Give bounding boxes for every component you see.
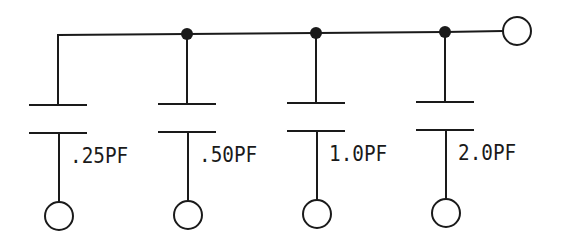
capacitor-4 <box>416 32 474 227</box>
capacitor-3-label: 1.0PF <box>329 144 387 165</box>
capacitor-2-label: .50PF <box>199 145 257 166</box>
output-terminal <box>503 17 531 45</box>
junction-dot-1 <box>181 28 193 40</box>
capacitor-3 <box>287 33 345 228</box>
terminal-3 <box>303 200 331 228</box>
circuit-diagram: .25PF .50PF 1.0PF 2.0PF <box>0 0 562 244</box>
bus-wire <box>58 31 503 105</box>
junction-dot-3 <box>439 26 451 38</box>
capacitor-1-label: .25PF <box>70 146 128 167</box>
schematic-drawing <box>0 0 562 244</box>
terminal-1 <box>45 202 73 230</box>
terminal-4 <box>432 199 460 227</box>
capacitor-4-label: 2.0PF <box>458 143 516 164</box>
terminal-2 <box>174 201 202 229</box>
junction-dot-2 <box>310 27 322 39</box>
capacitor-2 <box>158 34 216 229</box>
